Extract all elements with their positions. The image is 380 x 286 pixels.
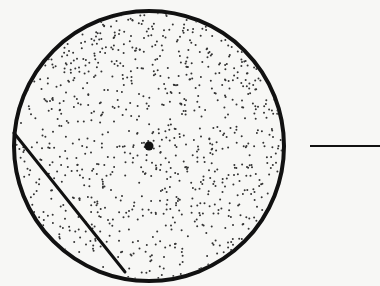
center-point	[145, 142, 154, 151]
circle-diagram	[0, 0, 380, 286]
